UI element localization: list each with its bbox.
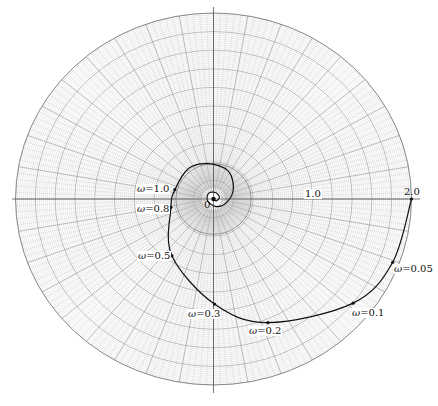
omega-0.5-label: ω=0.5: [137, 251, 171, 261]
omega-symbol: ω: [394, 263, 402, 274]
omega-0.05-label: ω=0.05: [393, 264, 434, 274]
omega-1.0-label: ω=1.0: [136, 184, 170, 194]
omega-value: =0.05: [402, 263, 433, 274]
omega-value: =0.5: [146, 250, 170, 261]
omega-symbol: ω: [249, 325, 257, 336]
omega-0.2-label: ω=0.2: [248, 326, 282, 336]
omega-value: =1.0: [145, 183, 169, 194]
omega-0.8-label: ω=0.8: [136, 204, 170, 214]
radius-2-label: 2.0: [403, 187, 421, 197]
omega-symbol: ω: [188, 308, 196, 319]
radius-1-label: 1.0: [304, 189, 322, 199]
axes: [12, 7, 420, 393]
origin-label: 0: [203, 200, 211, 210]
omega-symbol: ω: [137, 183, 145, 194]
polar-plot: [0, 0, 438, 406]
omega-0.3-label: ω=0.3: [187, 309, 221, 319]
omega-symbol: ω: [352, 307, 360, 318]
omega-symbol: ω: [137, 203, 145, 214]
omega-0.1-label: ω=0.1: [351, 308, 385, 318]
omega-symbol: ω: [138, 250, 146, 261]
omega-value: =0.1: [360, 307, 384, 318]
omega-value: =0.8: [145, 203, 169, 214]
omega-value: =0.2: [257, 325, 281, 336]
omega-value: =0.3: [196, 308, 220, 319]
